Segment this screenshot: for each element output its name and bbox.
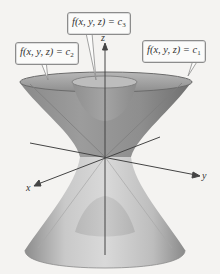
x-axis-label: x: [26, 182, 30, 193]
label-c1-subscript: 1: [197, 49, 201, 57]
label-c2-text: f(x, y, z) = c: [20, 46, 70, 57]
label-c2-subscript: 2: [70, 51, 74, 59]
label-c3-subscript: 3: [122, 21, 126, 29]
x-axis-arrow-icon: [34, 180, 41, 186]
y-axis-arrow-icon: [192, 172, 200, 178]
label-c2: f(x, y, z) = c2: [15, 42, 79, 65]
label-c3-text: f(x, y, z) = c: [72, 16, 122, 27]
level-surfaces-figure: f(x, y, z) = c3 f(x, y, z) = c2 f(x, y, …: [0, 0, 220, 274]
z-axis-arrow-icon: [103, 43, 108, 50]
label-c1-text: f(x, y, z) = c: [147, 44, 197, 55]
z-axis-label: z: [101, 32, 105, 43]
y-axis-label: y: [202, 170, 206, 181]
label-c3: f(x, y, z) = c3: [67, 12, 131, 35]
label-c1: f(x, y, z) = c1: [142, 40, 206, 63]
